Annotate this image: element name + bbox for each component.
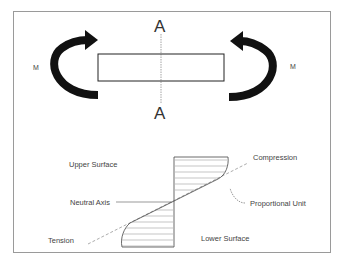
moment-label-left: M bbox=[33, 64, 39, 71]
upper-surface-label: Upper Surface bbox=[69, 160, 117, 169]
compression-label: Compression bbox=[253, 153, 297, 162]
section-label-bottom: A bbox=[154, 104, 165, 124]
neutral-axis-label: Neutral Axis bbox=[70, 198, 110, 207]
moment-label-right: M bbox=[290, 63, 296, 70]
tension-label: Tension bbox=[48, 236, 74, 245]
lower-surface-label: Lower Surface bbox=[201, 234, 249, 243]
section-label-top: A bbox=[154, 17, 165, 37]
right-moment-arrow-icon bbox=[229, 31, 273, 97]
diagram-graphics bbox=[0, 0, 345, 264]
left-moment-arrow-icon bbox=[54, 30, 98, 95]
proportional-unit-label: Proportional Unit bbox=[250, 199, 306, 208]
